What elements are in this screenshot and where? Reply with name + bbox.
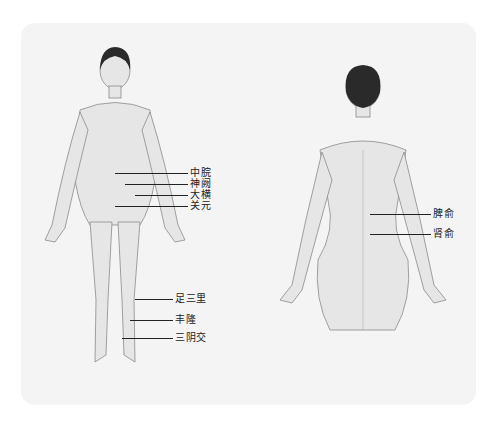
point-label-pishu: 脾俞 bbox=[433, 208, 454, 220]
leader-line-pishu bbox=[370, 214, 431, 215]
leader-line-zusanli bbox=[135, 299, 173, 300]
point-label-zusanli: 足三里 bbox=[175, 293, 207, 305]
point-label-fenglong: 丰隆 bbox=[175, 314, 196, 326]
leader-line-guanyuan bbox=[115, 206, 188, 207]
leader-line-fenglong bbox=[130, 320, 173, 321]
point-label-guanyuan: 关元 bbox=[190, 200, 211, 212]
leader-line-daheng bbox=[135, 195, 188, 196]
point-label-shenshu: 肾俞 bbox=[433, 228, 454, 240]
point-label-sanyinjiao: 三阴交 bbox=[175, 332, 207, 344]
leader-line-shenque bbox=[125, 184, 188, 185]
leader-line-shenshu bbox=[370, 234, 431, 235]
leader-line-zhongwan bbox=[115, 173, 188, 174]
leader-line-sanyinjiao bbox=[122, 338, 173, 339]
